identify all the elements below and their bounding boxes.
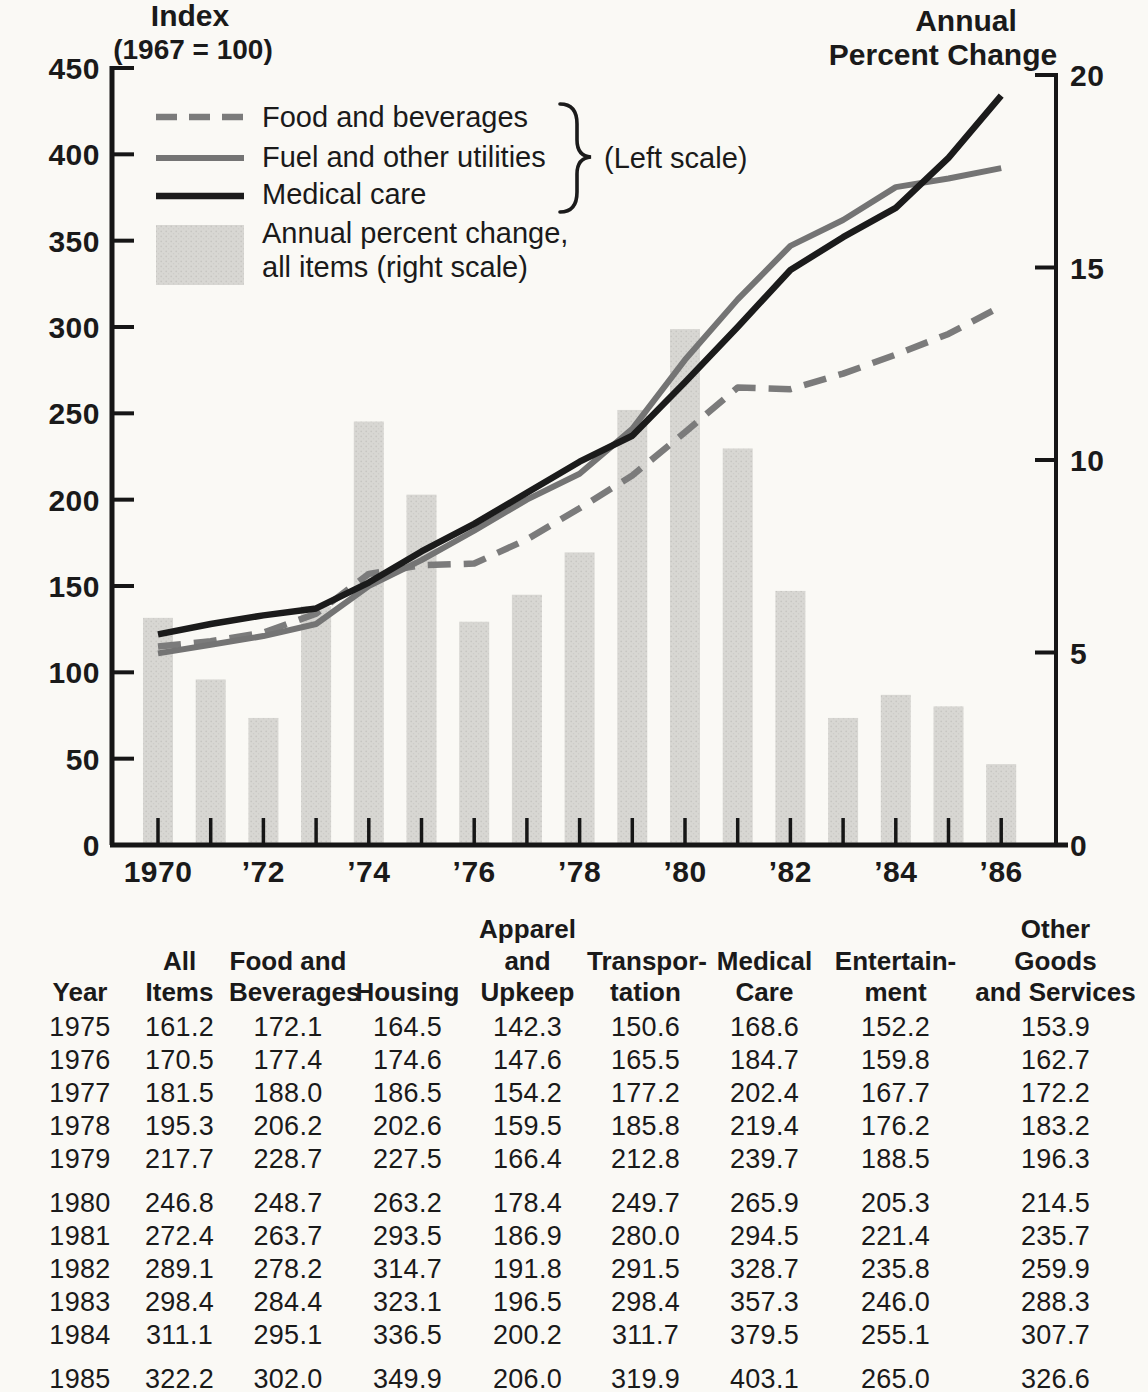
table-header-row: Year All Items Food and Beverages Housin… bbox=[30, 893, 1145, 1011]
x-tick-label-1974: ’74 bbox=[347, 855, 390, 888]
table-cell: 314.7 bbox=[347, 1254, 468, 1285]
table-cell: 170.5 bbox=[130, 1045, 229, 1076]
table-cell: 302.0 bbox=[229, 1364, 347, 1392]
table-body: 1975161.2172.1164.5142.3150.6168.6152.21… bbox=[30, 1011, 1145, 1392]
table-cell: 294.5 bbox=[704, 1221, 825, 1252]
right-axis-title-line1: Annual bbox=[915, 4, 1017, 37]
table-cell-year: 1985 bbox=[30, 1364, 130, 1392]
table-cell: 142.3 bbox=[468, 1012, 587, 1043]
table-header-transportation: Transpor- tation bbox=[587, 946, 704, 1011]
bar-series-layer bbox=[143, 329, 1016, 845]
table-row-1980: 1980246.8248.7263.2178.4249.7265.9205.32… bbox=[30, 1187, 1145, 1220]
table-cell: 154.2 bbox=[468, 1078, 587, 1109]
table-cell: 164.5 bbox=[347, 1012, 468, 1043]
x-tick-label-1984: ’84 bbox=[874, 855, 917, 888]
table-cell: 228.7 bbox=[229, 1144, 347, 1175]
table-cell: 159.8 bbox=[825, 1045, 966, 1076]
table-header-apparel-upkeep: Apparel and Upkeep bbox=[468, 914, 587, 1011]
table-cell: 326.6 bbox=[966, 1364, 1145, 1392]
left-tick-label-450: 450 bbox=[48, 52, 100, 85]
x-tick-label-1970: 1970 bbox=[124, 855, 193, 888]
x-tick-label-1986: ’86 bbox=[980, 855, 1023, 888]
table-row-1984: 1984311.1295.1336.5200.2311.7379.5255.13… bbox=[30, 1319, 1145, 1352]
bar-1977 bbox=[512, 595, 542, 845]
legend-label-food-and-beverages: Food and beverages bbox=[262, 101, 528, 133]
x-tick-label-1982: ’82 bbox=[769, 855, 812, 888]
table-cell: 159.5 bbox=[468, 1111, 587, 1142]
legend-label-bar-line2: all items (right scale) bbox=[262, 251, 528, 283]
left-tick-label-100: 100 bbox=[48, 656, 100, 689]
table-cell: 248.7 bbox=[229, 1188, 347, 1219]
table-cell-year: 1977 bbox=[30, 1078, 130, 1109]
left-axis-title: Index bbox=[151, 0, 230, 32]
table-cell: 255.1 bbox=[825, 1320, 966, 1351]
bar-1981 bbox=[723, 448, 753, 845]
table-cell: 191.8 bbox=[468, 1254, 587, 1285]
table-row-1982: 1982289.1278.2314.7191.8291.5328.7235.82… bbox=[30, 1253, 1145, 1286]
left-tick-label-350: 350 bbox=[48, 225, 100, 258]
table-row-1977: 1977181.5188.0186.5154.2177.2202.4167.71… bbox=[30, 1077, 1145, 1110]
table-header-medical-care: Medical Care bbox=[704, 946, 825, 1011]
table-cell: 280.0 bbox=[587, 1221, 704, 1252]
table-cell: 263.2 bbox=[347, 1188, 468, 1219]
table-cell: 265.0 bbox=[825, 1364, 966, 1392]
legend-swatch-bar bbox=[156, 225, 244, 285]
table-cell: 259.9 bbox=[966, 1254, 1145, 1285]
table-row-1976: 1976170.5177.4174.6147.6165.5184.7159.81… bbox=[30, 1044, 1145, 1077]
table-cell: 166.4 bbox=[468, 1144, 587, 1175]
table-cell-year: 1981 bbox=[30, 1221, 130, 1252]
table-cell: 150.6 bbox=[587, 1012, 704, 1043]
table-cell: 349.9 bbox=[347, 1364, 468, 1392]
right-tick-label-5: 5 bbox=[1070, 637, 1087, 670]
right-axis-title-line2: Percent Change bbox=[829, 38, 1057, 71]
right-tick-label-20: 20 bbox=[1070, 59, 1104, 92]
table-cell: 214.5 bbox=[966, 1188, 1145, 1219]
right-tick-label-0: 0 bbox=[1070, 829, 1087, 862]
legend-label-medical-care: Medical care bbox=[262, 178, 426, 210]
table-cell: 235.7 bbox=[966, 1221, 1145, 1252]
table-cell: 293.5 bbox=[347, 1221, 468, 1252]
left-scale-note: (Left scale) bbox=[604, 142, 747, 174]
x-tick-label-1978: ’78 bbox=[558, 855, 601, 888]
table-cell-year: 1980 bbox=[30, 1188, 130, 1219]
cpi-table: Year All Items Food and Beverages Housin… bbox=[30, 893, 1145, 1392]
table-cell: 263.7 bbox=[229, 1221, 347, 1252]
table-cell: 186.5 bbox=[347, 1078, 468, 1109]
right-tick-label-10: 10 bbox=[1070, 444, 1104, 477]
legend: Food and beverages Fuel and other utilit… bbox=[156, 101, 747, 285]
table-cell: 284.4 bbox=[229, 1287, 347, 1318]
table-cell: 188.5 bbox=[825, 1144, 966, 1175]
table-row-1983: 1983298.4284.4323.1196.5298.4357.3246.02… bbox=[30, 1286, 1145, 1319]
table-cell: 176.2 bbox=[825, 1111, 966, 1142]
left-tick-label-0: 0 bbox=[83, 829, 100, 862]
table-cell: 195.3 bbox=[130, 1111, 229, 1142]
bar-1978 bbox=[565, 552, 595, 845]
table-cell: 289.1 bbox=[130, 1254, 229, 1285]
table-cell: 196.5 bbox=[468, 1287, 587, 1318]
right-tick-label-15: 15 bbox=[1070, 252, 1104, 285]
bar-1974 bbox=[354, 422, 384, 846]
table-header-year: Year bbox=[30, 977, 130, 1011]
table-cell: 221.4 bbox=[825, 1221, 966, 1252]
table-cell: 206.0 bbox=[468, 1364, 587, 1392]
table-cell: 186.9 bbox=[468, 1221, 587, 1252]
table-cell: 188.0 bbox=[229, 1078, 347, 1109]
table-cell: 202.6 bbox=[347, 1111, 468, 1142]
table-cell: 336.5 bbox=[347, 1320, 468, 1351]
table-cell: 177.4 bbox=[229, 1045, 347, 1076]
table-cell: 212.8 bbox=[587, 1144, 704, 1175]
bar-1973 bbox=[301, 606, 331, 845]
table-cell: 235.8 bbox=[825, 1254, 966, 1285]
table-cell: 239.7 bbox=[704, 1144, 825, 1175]
left-tick-label-300: 300 bbox=[48, 311, 100, 344]
table-cell: 357.3 bbox=[704, 1287, 825, 1318]
table-cell: 181.5 bbox=[130, 1078, 229, 1109]
legend-brace bbox=[560, 104, 591, 212]
bar-1982 bbox=[775, 591, 805, 845]
table-cell-year: 1983 bbox=[30, 1287, 130, 1318]
table-cell: 200.2 bbox=[468, 1320, 587, 1351]
right-axis-ticks: 05101520 bbox=[1035, 59, 1104, 862]
table-cell: 153.9 bbox=[966, 1012, 1145, 1043]
table-row-1978: 1978195.3206.2202.6159.5185.8219.4176.21… bbox=[30, 1110, 1145, 1143]
table-cell-year: 1975 bbox=[30, 1012, 130, 1043]
